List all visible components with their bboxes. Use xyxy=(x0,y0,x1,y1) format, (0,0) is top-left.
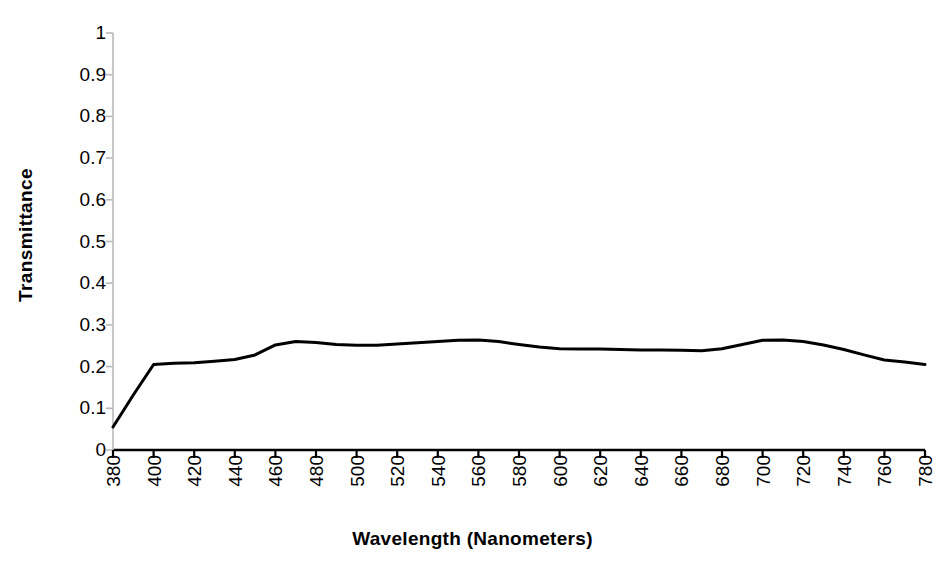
x-axis-title: Wavelength (Nanometers) xyxy=(0,528,945,550)
x-tick-label: 500 xyxy=(346,455,368,517)
x-tick-label: 720 xyxy=(792,455,814,517)
x-tick-label-text: 700 xyxy=(753,455,772,487)
x-tick-label-text: 520 xyxy=(388,455,407,487)
x-tick-label: 480 xyxy=(305,455,327,517)
x-tick-label-text: 580 xyxy=(510,455,529,487)
x-tick-label: 440 xyxy=(224,455,246,517)
x-tick-label-text: 640 xyxy=(631,455,650,487)
x-tick-label-text: 620 xyxy=(591,455,610,487)
x-tick-label: 660 xyxy=(670,455,692,517)
x-tick-label-text: 500 xyxy=(347,455,366,487)
x-tick-label: 520 xyxy=(386,455,408,517)
x-tick-label: 420 xyxy=(183,455,205,517)
x-tick-label: 620 xyxy=(589,455,611,517)
x-tick-label: 700 xyxy=(752,455,774,517)
x-tick-label: 680 xyxy=(711,455,733,517)
x-tick-label: 380 xyxy=(102,455,124,517)
x-tick-label: 740 xyxy=(833,455,855,517)
x-tick-label: 580 xyxy=(508,455,530,517)
x-tick-label-text: 540 xyxy=(428,455,447,487)
x-tick-label-text: 720 xyxy=(794,455,813,487)
x-tick-label-text: 680 xyxy=(713,455,732,487)
x-axis-tick-labels: 3804004204404604805005205405605806006206… xyxy=(0,455,945,530)
x-tick-label-text: 560 xyxy=(469,455,488,487)
x-tick-label-text: 400 xyxy=(144,455,163,487)
x-tick-label-text: 780 xyxy=(916,455,935,487)
data-series xyxy=(113,340,925,427)
x-tick-label-text: 380 xyxy=(104,455,123,487)
x-tick-label: 400 xyxy=(143,455,165,517)
x-tick-label: 760 xyxy=(873,455,895,517)
chart-figure: Transmittance 00.10.20.30.40.50.60.70.80… xyxy=(0,0,945,579)
tick-marks xyxy=(106,33,925,458)
x-tick-label-text: 480 xyxy=(307,455,326,487)
x-tick-label-text: 660 xyxy=(672,455,691,487)
x-tick-label: 780 xyxy=(914,455,936,517)
x-tick-label-text: 440 xyxy=(225,455,244,487)
x-tick-label: 540 xyxy=(427,455,449,517)
x-tick-label: 640 xyxy=(630,455,652,517)
x-tick-label: 560 xyxy=(467,455,489,517)
series-line xyxy=(113,340,925,427)
x-tick-label-text: 740 xyxy=(834,455,853,487)
x-tick-label-text: 420 xyxy=(185,455,204,487)
x-tick-label: 600 xyxy=(549,455,571,517)
axes xyxy=(113,33,925,450)
x-tick-label-text: 760 xyxy=(875,455,894,487)
x-tick-label-text: 600 xyxy=(550,455,569,487)
x-tick-label-text: 460 xyxy=(266,455,285,487)
x-tick-label: 460 xyxy=(264,455,286,517)
